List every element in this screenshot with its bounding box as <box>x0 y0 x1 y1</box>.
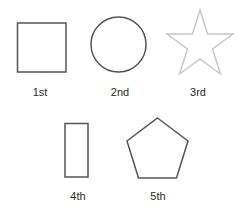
star-shape <box>167 10 233 74</box>
circle-shape <box>91 17 146 72</box>
label-4th: 4th <box>70 190 85 202</box>
label-5th: 5th <box>150 190 165 202</box>
label-3rd: 3rd <box>190 86 206 98</box>
square-shape <box>18 23 67 72</box>
shapes-diagram: 1st 2nd 3rd 4th 5th <box>0 0 242 209</box>
label-2nd: 2nd <box>111 86 129 98</box>
label-1st: 1st <box>33 86 48 98</box>
rectangle-shape <box>65 124 88 178</box>
pentagon-shape <box>127 118 188 178</box>
